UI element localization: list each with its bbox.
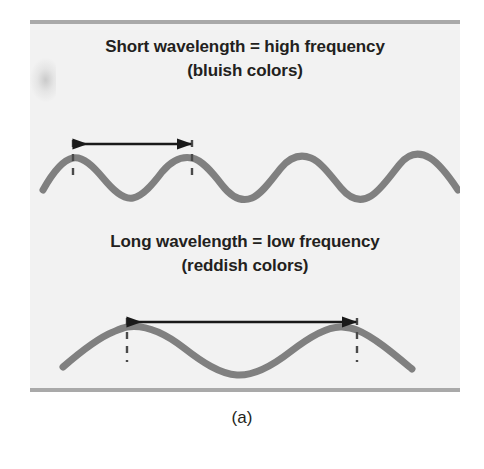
wave-curve-long: [63, 326, 412, 375]
wave-curve-short: [43, 154, 458, 199]
caption-short-wavelength: Short wavelength = high frequency (bluis…: [30, 35, 460, 83]
caption-long-line1: Long wavelength = low frequency: [110, 232, 379, 251]
wave-diagram-long-wavelength: [30, 290, 460, 385]
wave-diagram-short-wavelength: [30, 100, 460, 210]
caption-long-line2: (reddish colors): [30, 254, 460, 278]
caption-short-line2: (bluish colors): [30, 59, 460, 83]
top-rule-divider: [30, 20, 460, 24]
figure-label: (a): [0, 406, 484, 430]
caption-short-line1: Short wavelength = high frequency: [105, 37, 385, 56]
long-wavelength-svg: [30, 290, 460, 385]
figure-panel: Short wavelength = high frequency (bluis…: [30, 20, 460, 392]
bottom-rule-divider: [30, 388, 460, 392]
short-wavelength-svg: [30, 100, 460, 210]
caption-long-wavelength: Long wavelength = low frequency (reddish…: [30, 230, 460, 278]
